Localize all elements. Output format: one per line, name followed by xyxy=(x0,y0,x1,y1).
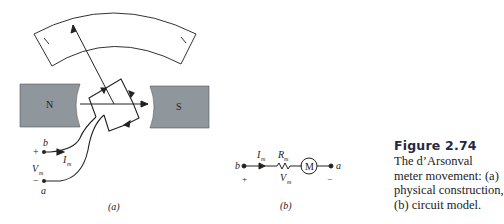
meter-label: M xyxy=(305,161,314,172)
figure-title: Figure 2.74 xyxy=(394,138,504,153)
current-sub: m xyxy=(67,161,72,167)
circuit-labels: b + I m R m V m M a − (b) xyxy=(235,149,341,212)
b-plus-label: + xyxy=(242,174,247,184)
meter-scale xyxy=(34,13,196,66)
b-terminal-a-label: a xyxy=(336,160,341,171)
b-terminal-b-label: b xyxy=(235,160,240,171)
terminal-a-dot-b xyxy=(329,164,333,168)
figure-caption-text: The d’Arsonval meter movement: (a) physi… xyxy=(394,154,504,212)
part-a-label: (a) xyxy=(108,201,120,213)
north-label: N xyxy=(46,99,53,110)
plus-label: + xyxy=(33,146,39,157)
south-label: S xyxy=(176,101,182,112)
figure-caption: Figure 2.74 The d’Arsonval meter movemen… xyxy=(394,138,504,212)
terminals-a: b + V m I m − a (a) xyxy=(32,137,120,213)
terminal-a-dot xyxy=(42,179,46,183)
magnet-north: N xyxy=(20,84,80,127)
resistor-symbol xyxy=(277,163,290,169)
b-resistance-sub: m xyxy=(284,156,289,162)
voltage-sub: m xyxy=(39,170,44,176)
terminal-b-dot xyxy=(42,150,46,154)
terminal-a-label: a xyxy=(41,185,46,196)
b-voltage-sub: m xyxy=(287,179,292,185)
part-b-label: (b) xyxy=(280,200,292,212)
b-minus-label: − xyxy=(327,174,332,184)
minus-label: − xyxy=(33,175,39,186)
terminal-b-label: b xyxy=(43,137,48,148)
magnet-south: S xyxy=(150,86,209,128)
b-current-sub: m xyxy=(261,156,266,162)
